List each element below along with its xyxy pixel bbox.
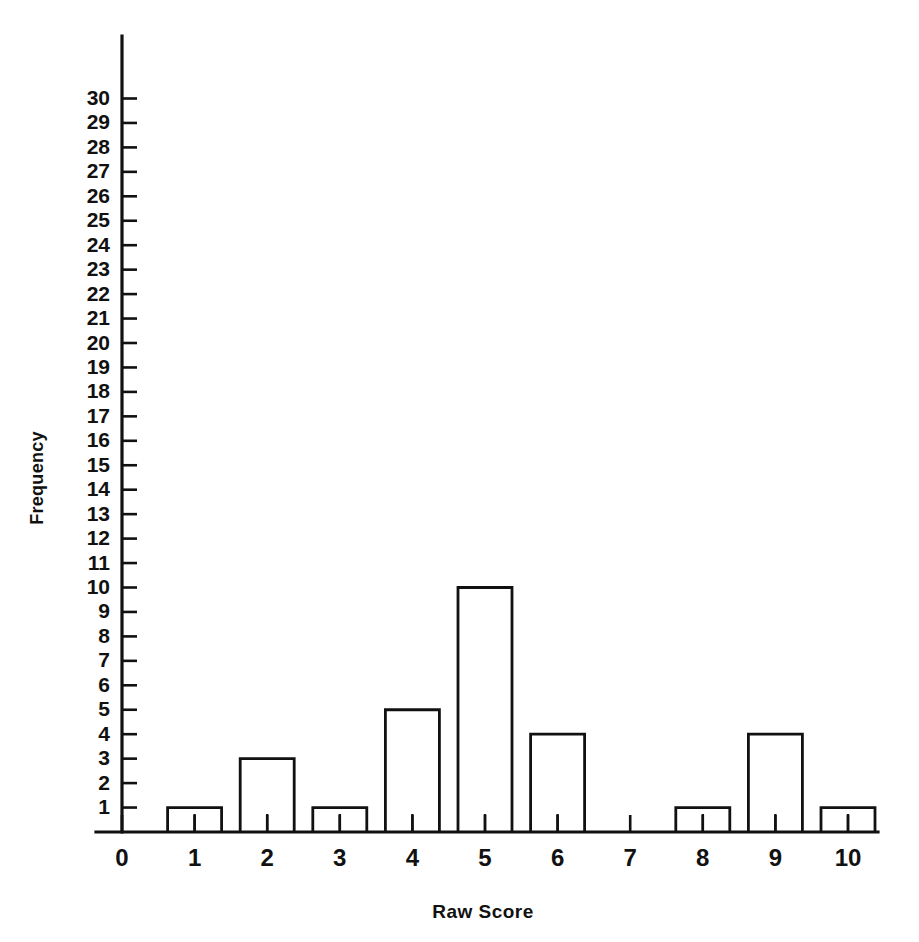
y-tick-label: 3 (98, 746, 110, 769)
x-tick-label: 7 (624, 844, 637, 871)
y-tick-label: 19 (87, 355, 110, 378)
x-tick-label: 3 (333, 844, 346, 871)
y-tick-label: 15 (87, 453, 111, 476)
x-tick-label: 0 (115, 844, 128, 871)
x-tick-label: 6 (551, 844, 564, 871)
y-tick-label: 24 (87, 233, 111, 256)
bar-4 (385, 710, 439, 832)
y-tick-label: 7 (98, 648, 110, 671)
x-tick-label: 1 (188, 844, 201, 871)
y-tick-label: 16 (87, 428, 110, 451)
bar-5 (458, 588, 512, 833)
y-tick-label: 20 (87, 331, 110, 354)
y-tick-label: 1 (98, 795, 110, 818)
y-axis-ticks: 1234567891011121314151617181920212223242… (87, 86, 137, 818)
y-tick-label: 27 (87, 159, 110, 182)
y-tick-label: 23 (87, 257, 110, 280)
x-tick-label: 5 (478, 844, 491, 871)
x-tick-label: 2 (261, 844, 274, 871)
x-tick-label: 8 (696, 844, 709, 871)
y-tick-label: 9 (98, 599, 110, 622)
y-tick-label: 25 (87, 208, 111, 231)
y-tick-label: 14 (87, 477, 111, 500)
bars-group (168, 588, 875, 833)
axes-group (96, 36, 878, 832)
y-tick-label: 13 (87, 502, 110, 525)
x-axis-title: Raw Score (432, 901, 534, 922)
y-tick-label: 8 (98, 624, 110, 647)
y-tick-label: 10 (87, 575, 110, 598)
y-tick-label: 17 (87, 404, 110, 427)
histogram-figure: Frequency Raw Score 12345678910111213141… (0, 0, 919, 942)
y-tick-label: 18 (87, 379, 111, 402)
y-tick-label: 5 (98, 697, 110, 720)
y-tick-label: 29 (87, 110, 110, 133)
x-tick-label: 9 (769, 844, 782, 871)
y-tick-label: 30 (87, 86, 110, 109)
y-tick-label: 12 (87, 526, 110, 549)
y-tick-label: 28 (87, 135, 111, 158)
x-tick-label: 4 (406, 844, 420, 871)
y-tick-label: 11 (88, 551, 111, 574)
y-tick-label: 6 (98, 673, 110, 696)
y-tick-label: 22 (87, 282, 110, 305)
y-tick-label: 4 (98, 722, 110, 745)
x-tick-label: 10 (835, 844, 862, 871)
y-tick-label: 21 (87, 306, 111, 329)
y-axis-title: Frequency (27, 431, 47, 525)
frequency-histogram: Frequency Raw Score 12345678910111213141… (0, 0, 919, 942)
y-tick-label: 2 (98, 771, 110, 794)
y-tick-label: 26 (87, 184, 110, 207)
